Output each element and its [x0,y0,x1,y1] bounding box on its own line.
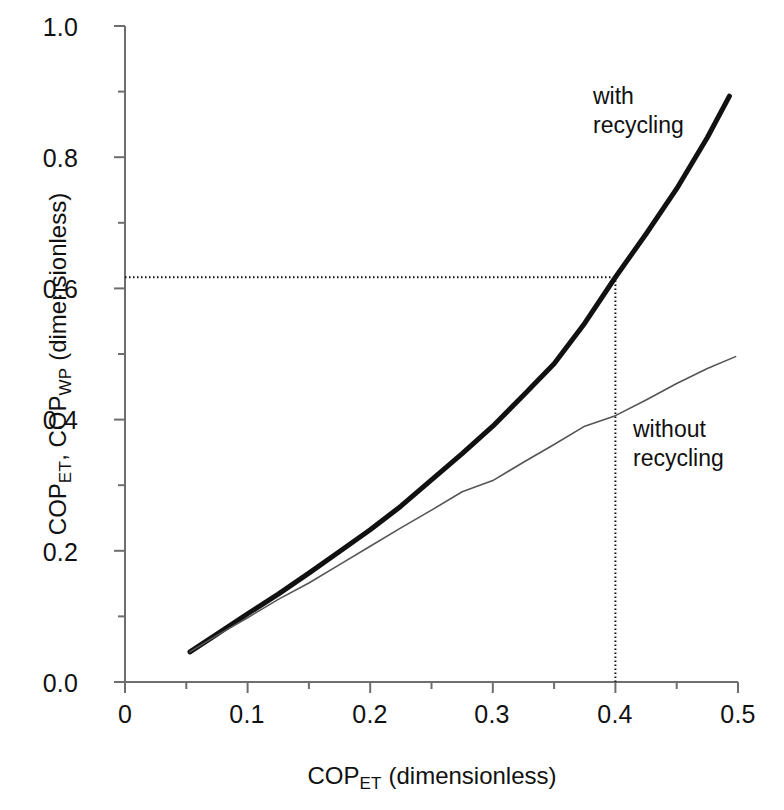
x-axis-title-sub-et: ET [359,774,381,793]
x-axis-title-cop: COP [307,762,359,789]
y-axis-title-sub-wp: WP [56,368,75,396]
reference-lines-layer [125,277,615,682]
series-line-without-recycling [190,357,736,652]
x-tick-label-0-3: 0.3 [447,700,537,729]
y-tick-label-0-8: 0.8 [0,144,78,173]
chart-container: 1.0 0.8 0.6 0.4 0.2 0.0 0 0.1 0.2 0.3 0.… [0,0,784,810]
annotation-without-recycling: without recycling [633,415,724,473]
x-tick-label-0-2: 0.2 [325,700,415,729]
annotation-with-recycling: with recycling [593,82,684,140]
y-tick-label-0-0: 0.0 [0,669,78,698]
x-axis-title-tail: (dimensionless) [382,762,557,789]
x-tick-label-0-4: 0.4 [570,700,660,729]
y-axis-title-mid: , COP [44,396,71,461]
y-tick-label-1-0: 1.0 [0,13,78,42]
x-tick-label-0-5: 0.5 [693,700,783,729]
y-axis-title-cop1: COP [44,483,71,535]
x-axis-title: COPET (dimensionless) [192,762,672,790]
series-layer [190,96,736,652]
series-line-with-recycling [190,96,729,652]
y-axis-title: COPET, COPWP (dimensionless) [44,184,72,544]
x-tick-label-0-1: 0.1 [202,700,292,729]
x-tick-label-0: 0 [80,700,170,729]
y-axis-title-tail: (dimensionless) [44,193,71,368]
y-axis-title-sub-et: ET [56,461,75,483]
